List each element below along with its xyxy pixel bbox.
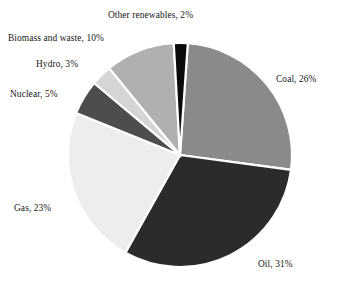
slice-label-other-renewables: Other renewables, 2%: [108, 10, 193, 21]
slice-label-oil: Oil, 31%: [258, 259, 293, 270]
pie-slice-group: [68, 43, 292, 267]
slice-label-nuclear: Nuclear, 5%: [10, 89, 58, 100]
pie-chart-svg: [0, 0, 347, 294]
slice-label-gas: Gas, 23%: [14, 203, 51, 214]
slice-label-coal: Coal, 26%: [276, 74, 316, 85]
pie-chart-figure: Other renewables, 2% Biomass and waste, …: [0, 0, 347, 294]
pie-slice-coal: [180, 43, 292, 170]
slice-label-biomass-and-waste: Biomass and waste, 10%: [8, 33, 104, 44]
slice-label-hydro: Hydro, 3%: [36, 59, 78, 70]
